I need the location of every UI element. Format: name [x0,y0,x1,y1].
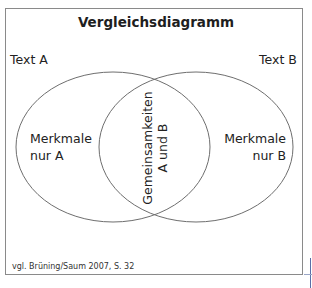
unique-a-line2: nur A [30,147,92,164]
intersection-line2: A und B [155,91,170,204]
unique-a-line1: Merkmale [30,130,92,147]
intersection-label: Gemeinsamkeiten A und B [140,91,170,204]
unique-a-label: Merkmale nur A [30,130,92,164]
source-citation: vgl. Brüning/Saum 2007, S. 32 [12,262,134,271]
unique-b-label: Merkmale nur B [222,130,286,164]
edge-line [310,258,311,288]
unique-b-line2: nur B [222,147,286,164]
edge-line-horizontal [304,274,312,275]
intersection-line1: Gemeinsamkeiten [140,91,155,204]
unique-b-line1: Merkmale [222,130,286,147]
